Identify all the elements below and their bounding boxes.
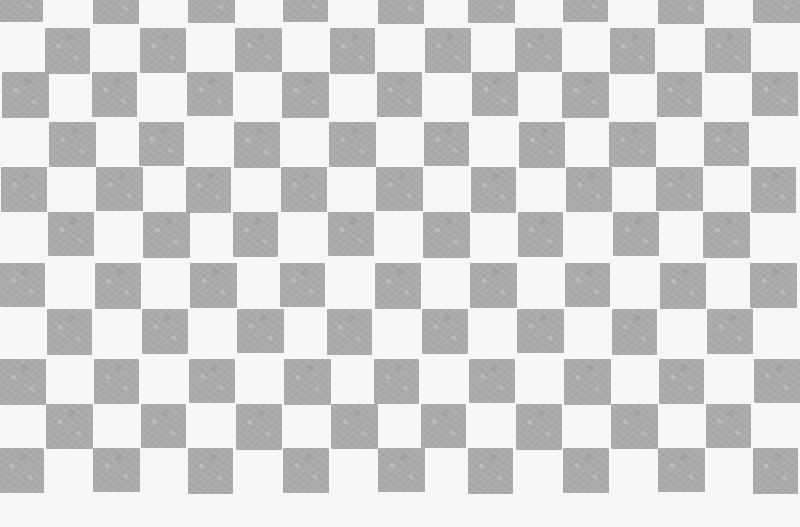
checker-square — [422, 309, 468, 354]
checker-square — [234, 122, 280, 168]
checker-square — [49, 122, 96, 167]
checker-square — [376, 167, 423, 211]
checker-square — [517, 309, 564, 353]
checker-square — [566, 167, 612, 212]
checker-square — [378, 0, 424, 24]
checker-square — [750, 263, 797, 308]
checker-square — [472, 72, 518, 116]
checker-square — [425, 28, 471, 73]
checker-square — [374, 359, 419, 404]
checker-square — [375, 263, 421, 309]
checker-square — [703, 212, 750, 258]
checker-square — [143, 212, 190, 258]
checker-square — [96, 167, 143, 211]
checker-square — [328, 212, 374, 256]
checker-square — [515, 28, 562, 72]
checker-square — [518, 212, 563, 257]
checker-square — [283, 448, 329, 493]
checker-square — [95, 263, 141, 309]
checker-square — [751, 167, 796, 213]
checker-square — [139, 122, 184, 166]
checker-square — [2, 72, 49, 118]
checker-square — [284, 359, 331, 405]
checker-square — [754, 359, 800, 403]
checker-square — [613, 212, 659, 256]
checker-square — [424, 122, 469, 166]
checker-square — [656, 167, 703, 211]
checker-square — [471, 167, 516, 213]
checker-square — [660, 263, 706, 309]
checker-square — [282, 72, 329, 118]
checker-square — [468, 0, 515, 23]
checker-square — [330, 28, 375, 74]
checker-square — [0, 0, 43, 22]
checker-square — [141, 404, 186, 448]
checker-square — [562, 72, 609, 118]
checker-square — [281, 167, 327, 212]
checker-square — [563, 0, 608, 22]
checker-square — [93, 448, 140, 492]
checker-square — [94, 359, 139, 404]
checker-square — [658, 0, 704, 24]
checker-square — [48, 212, 94, 256]
checker-square — [469, 359, 515, 403]
checker-square — [327, 309, 372, 355]
checker-square — [611, 404, 658, 449]
checker-square — [377, 72, 422, 117]
checker-square — [516, 404, 562, 450]
checker-square — [233, 212, 278, 257]
checker-square — [565, 263, 610, 307]
checker-square — [188, 448, 233, 494]
checker-square — [45, 28, 90, 74]
checker-square — [657, 72, 702, 117]
checker-square — [190, 263, 237, 308]
checker-square — [707, 309, 753, 354]
checker-square — [612, 309, 657, 355]
checker-square — [0, 359, 46, 405]
checker-square — [421, 404, 466, 448]
checker-square — [705, 28, 751, 73]
checker-square — [706, 404, 751, 448]
checker-square — [329, 122, 376, 167]
checker-square — [47, 309, 92, 355]
checker-square — [46, 404, 93, 449]
checker-square — [752, 72, 798, 116]
checker-square — [0, 448, 44, 493]
checker-square — [378, 448, 425, 492]
checker-square — [140, 28, 186, 73]
checker-square — [519, 122, 565, 168]
checker-square — [188, 0, 235, 23]
checker-square — [92, 72, 137, 117]
checker-square — [609, 122, 656, 167]
checker-square — [468, 448, 513, 494]
checker-square — [142, 309, 188, 354]
checker-square — [753, 0, 800, 23]
checker-square — [235, 28, 282, 72]
checker-square — [564, 359, 611, 405]
checker-square — [0, 263, 45, 307]
checker-square — [423, 212, 470, 258]
checker-square — [186, 167, 231, 213]
checker-square — [470, 263, 517, 308]
checker-square — [189, 359, 235, 403]
checker-square — [237, 309, 284, 353]
checker-square — [1, 167, 47, 212]
checker-square — [563, 448, 609, 493]
checker-square — [187, 72, 233, 116]
checker-square — [753, 448, 798, 494]
checker-square — [280, 263, 325, 307]
checker-square — [236, 404, 282, 450]
checker-square — [283, 0, 328, 22]
checker-square — [659, 359, 704, 404]
checker-square — [93, 0, 139, 24]
checker-square — [704, 122, 749, 166]
checker-square — [331, 404, 378, 449]
checker-square — [658, 448, 705, 492]
checker-square — [610, 28, 655, 74]
